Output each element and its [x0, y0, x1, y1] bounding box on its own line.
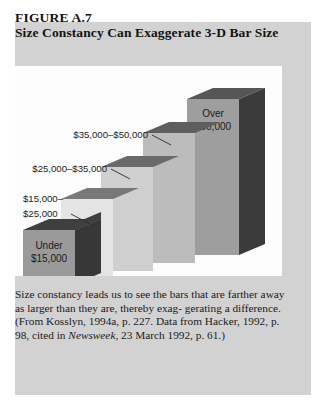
- figure-caption: Size constancy leads us to see the bars …: [15, 288, 287, 342]
- caption-source-newsweek: Newsweek: [68, 329, 115, 341]
- bar-5-label-line1: Over: [202, 108, 224, 119]
- caption-line-1: Size constancy leads us to see the bars …: [15, 288, 225, 300]
- bar-1-label-line2: $15,000: [31, 253, 68, 264]
- bar-1-label-line1: Under: [35, 240, 63, 251]
- caption-line-5: 23 March 1992, p. 61.): [121, 329, 225, 341]
- bar-5-side-face: [239, 88, 265, 255]
- callout-label-15000-25000-line1: $15,000–: [23, 193, 64, 204]
- chart-area: Over $50,000: [15, 66, 282, 276]
- figure-number: FIGURE A.7: [15, 10, 285, 25]
- caption-line-4-suffix: ,: [115, 329, 118, 341]
- callout-label-25000-35000: $25,000–$35,000: [32, 163, 107, 174]
- bar-over-50000: Over $50,000: [187, 88, 265, 255]
- figure-title: Size Constancy Can Exaggerate 3-D Bar Si…: [15, 25, 285, 41]
- bar-under-15000: Under $15,000: [23, 212, 101, 276]
- callout-label-35000-50000: $35,000–$50,000: [73, 129, 148, 140]
- bar-chart-3d: Over $50,000: [15, 66, 282, 276]
- callout-label-15000-25000-line2: $25,000: [23, 208, 58, 219]
- figure-page: FIGURE A.7 Size Constancy Can Exaggerate…: [0, 0, 325, 405]
- figure-header: FIGURE A.7 Size Constancy Can Exaggerate…: [15, 10, 285, 41]
